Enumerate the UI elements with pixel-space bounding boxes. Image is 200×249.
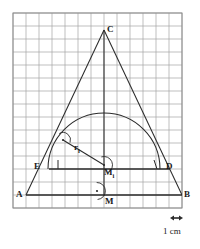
vertex-label-d: D <box>166 162 173 171</box>
vertex-label-mi-subscript: i <box>113 172 115 179</box>
scale-arrow-right <box>179 215 183 220</box>
vertex-label-b: B <box>184 190 190 199</box>
geometry-figure: A B C D E M Mi ri 1 cm <box>0 0 200 249</box>
vertex-label-mi-base: M <box>104 167 113 177</box>
vertex-label-mi: Mi <box>104 168 114 179</box>
vertex-label-e: E <box>34 162 40 171</box>
scale-bar <box>170 215 183 220</box>
vertex-label-a: A <box>16 190 23 199</box>
right-angle-dot-mi <box>103 164 105 166</box>
geometry-canvas <box>0 0 200 249</box>
grid-background <box>13 13 182 208</box>
right-angle-dot-tangent <box>62 139 64 141</box>
radius-label: ri <box>74 143 80 154</box>
scale-caption: 1 cm <box>163 227 181 236</box>
scale-arrow-left <box>170 215 174 220</box>
right-angle-dot-m <box>96 190 98 192</box>
radius-label-subscript: i <box>78 147 80 154</box>
vertex-label-c: C <box>107 25 114 34</box>
vertex-label-m: M <box>105 197 114 206</box>
